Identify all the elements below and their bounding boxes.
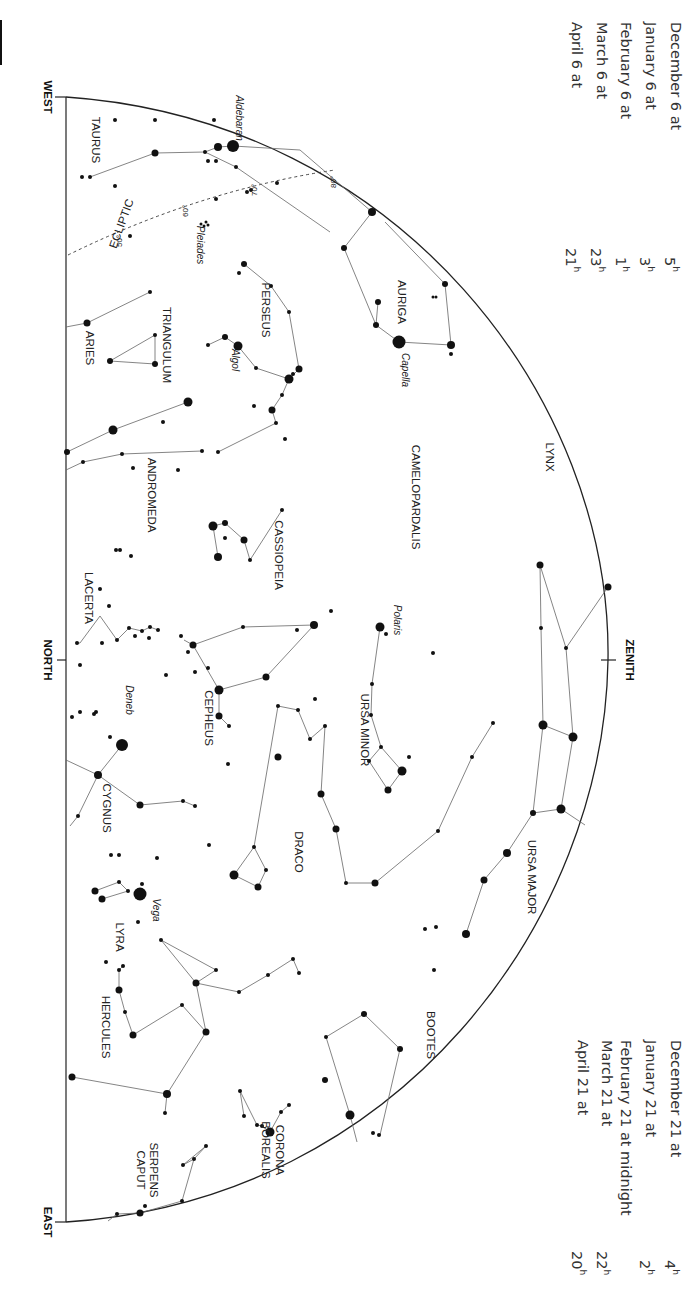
star — [252, 845, 256, 849]
star — [107, 358, 113, 364]
star — [76, 814, 80, 818]
constellation-line — [375, 831, 438, 883]
constellation-line — [236, 167, 330, 232]
west-label: WEST — [42, 80, 54, 113]
constellation-line — [225, 523, 244, 540]
constellation-line — [336, 829, 346, 883]
constellation-line — [472, 723, 493, 757]
viewing-hour: 1h — [611, 257, 636, 272]
sky-boundary-arc — [66, 97, 608, 1222]
constellation-line — [326, 1014, 364, 1037]
star — [447, 341, 455, 349]
constellation-line — [371, 715, 381, 747]
star — [222, 520, 228, 526]
constellation-line — [95, 882, 119, 891]
viewing-time-row: February 21 at midnight — [616, 1040, 635, 1275]
constellation-line — [381, 747, 402, 771]
constellation-line — [113, 402, 188, 430]
viewing-time-row: March 6 at23h — [586, 22, 611, 272]
viewing-date: April 6 at — [561, 22, 586, 88]
star — [153, 118, 157, 122]
star — [94, 771, 102, 779]
star — [107, 604, 111, 608]
constellation-line — [289, 312, 299, 369]
star — [109, 426, 118, 435]
star — [115, 638, 119, 642]
viewing-date: January 6 at — [635, 22, 660, 110]
constellation-line — [102, 891, 128, 899]
star — [137, 802, 144, 809]
constellation-line — [193, 645, 219, 690]
constellation-line — [344, 212, 372, 248]
star — [88, 175, 92, 179]
star-name-label: Vega — [151, 899, 162, 922]
constellation-line — [364, 1014, 400, 1049]
viewing-date: February 6 at — [611, 22, 636, 119]
constellation-label: TAURUS — [90, 117, 102, 164]
viewing-hour: 4h — [660, 1260, 685, 1275]
star — [140, 629, 144, 633]
star — [109, 853, 113, 857]
star — [442, 281, 448, 287]
constellation-line — [182, 1005, 206, 1032]
constellation-line — [218, 423, 276, 452]
constellation-label: SERPENS — [148, 1143, 160, 1198]
star — [503, 849, 511, 857]
constellation-line — [256, 368, 289, 379]
constellation-line — [466, 880, 484, 934]
star — [209, 522, 218, 531]
viewing-date: February 21 at midnight — [616, 1040, 635, 1216]
star — [69, 1074, 76, 1081]
star-name-label: Polaris — [392, 605, 403, 636]
star — [176, 468, 180, 472]
constellation-line — [445, 284, 451, 345]
star — [206, 159, 210, 163]
constellation-line — [438, 757, 472, 831]
star — [384, 632, 388, 636]
constellation-line — [399, 342, 451, 345]
star — [341, 245, 347, 251]
star — [163, 1111, 167, 1115]
constellation-line — [196, 970, 216, 983]
east-label: EAST — [42, 1207, 54, 1238]
constellation-line — [133, 1005, 182, 1035]
constellation-line — [213, 526, 218, 557]
star — [92, 712, 96, 716]
constellation-line — [533, 725, 543, 813]
viewing-hour: 3h — [635, 257, 660, 272]
star — [147, 636, 151, 640]
star — [152, 361, 158, 367]
star — [204, 1144, 208, 1148]
constellation-line — [117, 628, 129, 640]
star — [431, 651, 435, 655]
star — [481, 877, 488, 884]
star — [605, 584, 612, 591]
star — [121, 964, 125, 968]
constellation-line — [243, 625, 314, 627]
star — [569, 733, 578, 742]
star — [230, 871, 239, 880]
star — [385, 787, 392, 794]
star — [269, 407, 276, 414]
constellation-line — [540, 565, 566, 648]
star — [216, 450, 220, 454]
star — [274, 421, 278, 425]
viewing-date: March 21 at — [592, 1040, 617, 1126]
constellation-label: LYRA — [114, 922, 126, 952]
star — [537, 562, 544, 569]
star — [539, 721, 548, 730]
star — [297, 971, 301, 975]
constellation-line — [561, 737, 573, 809]
star — [564, 646, 568, 650]
constellation-label: CORONA — [274, 1125, 286, 1176]
star — [434, 925, 438, 929]
star — [80, 175, 84, 179]
star — [310, 621, 318, 629]
star — [234, 165, 238, 169]
star — [449, 352, 453, 356]
constellation-line — [66, 760, 98, 775]
constellation-line — [122, 451, 202, 454]
viewing-hour: 22h — [592, 1251, 617, 1275]
star — [193, 804, 197, 808]
constellation-label: TRIANGULUM — [161, 307, 173, 383]
